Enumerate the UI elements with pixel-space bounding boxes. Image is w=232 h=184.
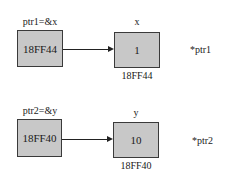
variable-address-x: 18FF44 [114, 70, 160, 81]
pointer-value-ptr2: 18FF40 [22, 132, 56, 144]
arrow-ptr1-to-x [63, 49, 109, 50]
variable-name-y: y [113, 107, 159, 118]
pointer-box-ptr1: 18FF44 [17, 30, 63, 67]
pointer-value-ptr1: 18FF44 [23, 43, 57, 55]
pointer-label-ptr1: ptr1=&x [17, 16, 63, 27]
variable-value-x: 1 [134, 44, 140, 56]
arrow-ptr2-to-y [62, 139, 108, 140]
variable-box-y: 10 [113, 122, 159, 158]
variable-address-y: 18FF40 [113, 160, 159, 171]
pointer-label-ptr2: ptr2=&y [17, 105, 63, 116]
variable-box-x: 1 [114, 32, 160, 68]
deref-label-ptr2: *ptr2 [192, 135, 213, 146]
pointer-box-ptr2: 18FF40 [17, 119, 62, 157]
variable-value-y: 10 [131, 134, 142, 146]
variable-name-x: x [114, 16, 160, 27]
deref-label-ptr1: *ptr1 [190, 44, 211, 55]
